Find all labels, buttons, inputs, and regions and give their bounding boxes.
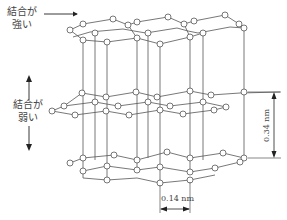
graphite-structure-diagram: 0.34 nm 0.14 nm bbox=[0, 0, 287, 220]
interlayer-distance-dimension: 0.34 nm bbox=[248, 92, 281, 158]
middle-graphene-layer bbox=[49, 88, 280, 118]
bond-length-label: 0.14 nm bbox=[161, 194, 195, 203]
interlayer-distance-label: 0.34 nm bbox=[262, 108, 271, 142]
bottom-graphene-layer bbox=[67, 149, 247, 186]
weak-bond-double-arrow-icon bbox=[26, 75, 32, 151]
bond-length-dimension: 0.14 nm bbox=[160, 182, 195, 213]
top-graphene-layer bbox=[67, 12, 247, 47]
